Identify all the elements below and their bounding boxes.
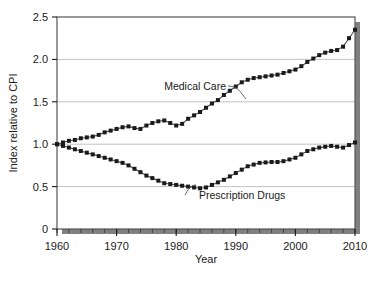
- data-point: [186, 117, 190, 121]
- data-point: [258, 75, 262, 79]
- data-point: [329, 49, 333, 53]
- data-point: [281, 71, 285, 75]
- data-point: [222, 93, 226, 97]
- data-point: [276, 160, 280, 164]
- data-point: [299, 64, 303, 68]
- data-point: [127, 124, 131, 128]
- data-point: [192, 113, 196, 117]
- data-point: [73, 147, 77, 151]
- data-point: [264, 74, 268, 78]
- x-tick-label-1970: 1970: [104, 240, 128, 252]
- data-point: [67, 139, 71, 143]
- data-point: [138, 170, 142, 174]
- data-point: [210, 183, 214, 187]
- data-point: [97, 154, 101, 158]
- y-tick-label-2.5: 2.5: [33, 11, 48, 23]
- x-tick-label-1990: 1990: [224, 240, 248, 252]
- data-point: [270, 160, 274, 164]
- y-axis-major-ticks: [52, 17, 57, 229]
- x-tick-label-2010: 2010: [343, 240, 367, 252]
- data-point: [293, 156, 297, 160]
- data-point: [121, 125, 125, 129]
- data-point: [150, 176, 154, 180]
- data-point: [353, 141, 357, 145]
- data-point: [234, 171, 238, 175]
- data-point: [91, 135, 95, 139]
- data-point: [246, 164, 250, 168]
- data-point: [270, 74, 274, 78]
- x-axis-tick-labels: 196019701980199020002010: [45, 240, 367, 252]
- data-point: [258, 161, 262, 165]
- data-point: [144, 174, 148, 178]
- data-point: [281, 159, 285, 163]
- data-point: [311, 57, 315, 61]
- data-point: [317, 53, 321, 57]
- data-point: [79, 149, 83, 153]
- data-point: [264, 160, 268, 164]
- data-point: [132, 167, 136, 171]
- data-point: [103, 156, 107, 160]
- data-point: [103, 130, 107, 134]
- data-point: [156, 119, 160, 123]
- annotation-prescription-drugs: Prescription Drugs: [199, 189, 285, 201]
- data-point: [85, 151, 89, 155]
- data-point: [216, 98, 220, 102]
- data-point: [204, 106, 208, 110]
- data-point: [293, 68, 297, 72]
- data-point: [216, 180, 220, 184]
- data-point: [168, 121, 172, 125]
- data-point: [91, 152, 95, 156]
- data-point: [341, 146, 345, 150]
- data-point: [311, 147, 315, 151]
- data-point: [168, 182, 172, 186]
- y-axis-tick-labels: 00.51.01.52.02.5: [33, 11, 48, 235]
- data-point: [55, 142, 59, 146]
- data-point: [180, 122, 184, 126]
- data-point: [323, 145, 327, 149]
- data-point: [138, 127, 142, 131]
- data-point: [335, 145, 339, 149]
- x-tick-label-1980: 1980: [164, 240, 188, 252]
- data-point: [156, 179, 160, 183]
- data-point: [115, 159, 119, 163]
- x-tick-label-2000: 2000: [283, 240, 307, 252]
- data-point: [109, 157, 113, 161]
- data-point: [109, 129, 113, 133]
- data-point: [353, 28, 357, 32]
- data-point: [305, 149, 309, 153]
- y-tick-label-0: 0: [42, 223, 48, 235]
- data-point: [174, 183, 178, 187]
- data-point: [287, 69, 291, 73]
- data-point: [73, 138, 77, 142]
- data-point: [246, 78, 250, 82]
- data-point: [276, 73, 280, 77]
- data-point: [240, 80, 244, 84]
- data-point: [299, 152, 303, 156]
- y-tick-label-0.5: 0.5: [33, 181, 48, 193]
- y-axis-title: Index relative to CPI: [7, 73, 19, 172]
- data-point: [198, 110, 202, 114]
- data-point: [323, 51, 327, 55]
- data-point: [97, 133, 101, 137]
- data-point: [121, 161, 125, 165]
- data-point: [174, 124, 178, 128]
- data-point: [305, 60, 309, 64]
- data-point: [329, 144, 333, 148]
- y-tick-label-1: 1.0: [33, 138, 48, 150]
- x-tick-label-1960: 1960: [45, 240, 69, 252]
- line-chart: 196019701980199020002010 00.51.01.52.02.…: [0, 0, 378, 282]
- data-point: [347, 143, 351, 147]
- data-point: [85, 135, 89, 139]
- y-tick-label-1.5: 1.5: [33, 96, 48, 108]
- data-point: [335, 48, 339, 52]
- data-point: [228, 89, 232, 93]
- data-point: [317, 146, 321, 150]
- data-point: [287, 157, 291, 161]
- data-point: [347, 36, 351, 40]
- data-point: [79, 136, 83, 140]
- y-tick-label-2: 2.0: [33, 53, 48, 65]
- data-point: [341, 45, 345, 49]
- data-point: [252, 76, 256, 80]
- x-axis-title: Year: [195, 253, 218, 265]
- data-point: [210, 102, 214, 106]
